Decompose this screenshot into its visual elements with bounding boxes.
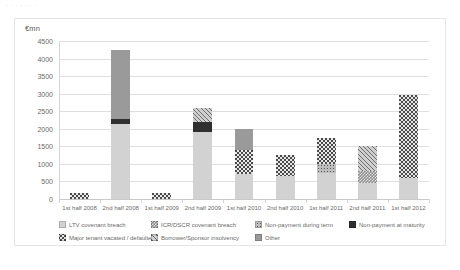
- bar-segment-tenant[interactable]: [317, 138, 336, 164]
- y-tick-4500: 4500: [37, 38, 53, 45]
- y-tick-3000: 3000: [37, 90, 53, 97]
- x-tick-mark: [388, 199, 389, 203]
- x-tick-mark: [347, 199, 348, 203]
- y-tick-1500: 1500: [37, 143, 53, 150]
- x-tick-mark: [141, 199, 142, 203]
- x-tick-label: 1st half 2009: [145, 205, 179, 211]
- x-tick-label: 1st half 2010: [227, 205, 261, 211]
- y-tick-500: 500: [41, 178, 53, 185]
- y-tick-3500: 3500: [37, 73, 53, 80]
- y-tick-2000: 2000: [37, 125, 53, 132]
- bar-segment-other[interactable]: [235, 129, 254, 150]
- scan-artifact-text: · · · · · · ·: [0, 0, 460, 12]
- legend-swatch-icr: [151, 221, 158, 228]
- bar-group[interactable]: [399, 95, 418, 199]
- bar-group[interactable]: [276, 155, 295, 199]
- x-tick-label: 2nd half 2010: [267, 205, 303, 211]
- x-tick-mark: [223, 199, 224, 203]
- y-axis-tick-labels: 450040003500300025002000150010005000: [15, 41, 57, 199]
- x-tick-label: 1st half 2012: [391, 205, 425, 211]
- x-tick-label: 1st half 2008: [62, 205, 96, 211]
- y-tick-1000: 1000: [37, 160, 53, 167]
- legend-swatch-ltv: [59, 221, 66, 228]
- legend-swatch-insolvency: [151, 234, 158, 241]
- legend-item-ltv[interactable]: LTV covenant breach: [59, 221, 126, 228]
- legend-swatch-other: [255, 234, 262, 241]
- y-tick-0: 0: [49, 196, 53, 203]
- x-axis-tick-labels: 1st half 20082nd half 20081st half 20092…: [59, 205, 429, 219]
- legend-label-insolvency: Borrower/Sponsor insolvency: [161, 235, 239, 241]
- y-tick-4000: 4000: [37, 55, 53, 62]
- legend-swatch-nonpay_term: [255, 221, 262, 228]
- legend-item-other[interactable]: Other: [255, 234, 280, 241]
- bar-segment-ltv[interactable]: [317, 173, 336, 199]
- bar-segment-tenant[interactable]: [399, 95, 418, 178]
- legend-swatch-nonpay_mat: [349, 221, 356, 228]
- legend-item-nonpay_mat[interactable]: Non-payment at maturity: [349, 221, 425, 228]
- bar-segment-ltv[interactable]: [358, 183, 377, 199]
- bar-segment-ltv[interactable]: [193, 132, 212, 199]
- legend-label-tenant: Major tenant vacated / defaulted: [69, 235, 155, 241]
- bar-series-container: [59, 41, 429, 199]
- legend-item-icr[interactable]: ICR/DSCR covenant breach: [151, 221, 236, 228]
- plot-area: [59, 41, 429, 199]
- bar-segment-ltv[interactable]: [399, 178, 418, 199]
- legend-label-nonpay_term: Non-payment during term: [265, 222, 333, 228]
- legend-label-icr: ICR/DSCR covenant breach: [161, 222, 236, 228]
- chart-legend: LTV covenant breachICR/DSCR covenant bre…: [59, 221, 439, 251]
- y-tick-2500: 2500: [37, 108, 53, 115]
- x-tick-mark: [306, 199, 307, 203]
- legend-label-other: Other: [265, 235, 280, 241]
- x-tick-label: 2nd half 2009: [185, 205, 221, 211]
- legend-label-ltv: LTV covenant breach: [69, 222, 126, 228]
- bar-group[interactable]: [235, 129, 254, 199]
- x-tick-label: 2nd half 2008: [102, 205, 138, 211]
- bar-segment-icr[interactable]: [358, 171, 377, 183]
- bar-group[interactable]: [317, 138, 336, 199]
- y-axis-title: €mn: [25, 24, 40, 33]
- bar-segment-ltv[interactable]: [276, 176, 295, 199]
- x-tick-label: 1st half 2011: [309, 205, 343, 211]
- bar-group[interactable]: [193, 108, 212, 199]
- x-tick-mark: [100, 199, 101, 203]
- legend-item-tenant[interactable]: Major tenant vacated / defaulted: [59, 234, 155, 241]
- x-tick-mark: [429, 199, 430, 203]
- bar-segment-other[interactable]: [111, 50, 130, 120]
- bar-group[interactable]: [111, 50, 130, 199]
- legend-label-nonpay_mat: Non-payment at maturity: [359, 222, 425, 228]
- chart-container: €mn 450040003500300025002000150010005000…: [14, 18, 446, 246]
- chart-screenshot: · · · · · · · €mn 4500400035003000250020…: [0, 0, 460, 270]
- bar-segment-nonpay_term[interactable]: [317, 164, 336, 173]
- legend-item-nonpay_term[interactable]: Non-payment during term: [255, 221, 333, 228]
- x-tick-mark: [59, 199, 60, 203]
- x-tick-mark: [182, 199, 183, 203]
- bar-segment-ltv[interactable]: [111, 124, 130, 199]
- x-tick-label: 2nd half 2011: [349, 205, 385, 211]
- bar-segment-tenant[interactable]: [276, 155, 295, 176]
- bar-segment-insolvency[interactable]: [358, 146, 377, 171]
- bar-segment-tenant[interactable]: [235, 150, 254, 175]
- bar-segment-insolvency[interactable]: [193, 108, 212, 122]
- legend-swatch-tenant: [59, 234, 66, 241]
- bar-segment-ltv[interactable]: [235, 174, 254, 199]
- bar-segment-nonpay_mat[interactable]: [193, 122, 212, 133]
- x-tick-mark: [265, 199, 266, 203]
- bar-group[interactable]: [358, 146, 377, 199]
- legend-item-insolvency[interactable]: Borrower/Sponsor insolvency: [151, 234, 239, 241]
